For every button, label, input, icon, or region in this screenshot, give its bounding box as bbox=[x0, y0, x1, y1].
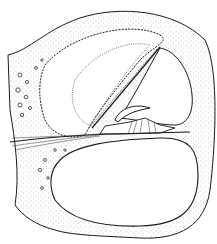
scala-tympani bbox=[51, 138, 198, 226]
cochlea-illustration bbox=[0, 0, 217, 244]
cochlea-drawing bbox=[0, 0, 217, 244]
